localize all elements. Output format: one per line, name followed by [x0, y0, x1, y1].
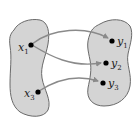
point-marker [109, 38, 114, 43]
point-marker [103, 60, 108, 65]
point-marker [28, 42, 33, 47]
point-marker [35, 89, 40, 94]
point-marker [100, 80, 105, 85]
mapping-diagram: x1 x3 y1 y2 y3 [0, 0, 138, 129]
